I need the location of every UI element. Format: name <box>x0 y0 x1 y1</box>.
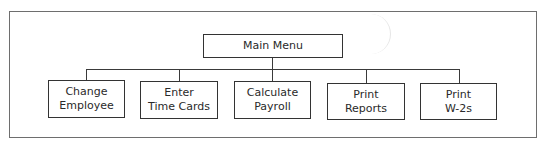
box-label-line1: Enter <box>164 86 194 100</box>
box-label-line2: Payroll <box>254 100 291 114</box>
box-label-line2: Reports <box>345 102 387 116</box>
print-w2s-box: Print W-2s <box>420 83 497 120</box>
calculate-payroll-box: Calculate Payroll <box>234 81 311 119</box>
box-label-line1: Change <box>65 85 107 99</box>
box-label-line1: Print <box>446 88 471 102</box>
main-menu-box: Main Menu <box>203 34 343 58</box>
box-label-line1: Calculate <box>247 86 298 100</box>
child-connector-5 <box>459 69 460 83</box>
child-connector-2 <box>179 69 180 81</box>
box-label-line2: W-2s <box>445 102 472 116</box>
box-label-line1: Print <box>353 88 378 102</box>
box-label-line2: Time Cards <box>148 100 210 114</box>
child-connector-1 <box>86 69 87 80</box>
box-label-line2: Employee <box>59 99 113 113</box>
change-employee-box: Change Employee <box>48 80 125 118</box>
print-reports-box: Print Reports <box>327 83 405 120</box>
child-connector-4 <box>366 69 367 83</box>
enter-time-cards-box: Enter Time Cards <box>140 81 218 119</box>
child-connector-3 <box>272 69 273 81</box>
main-menu-label: Main Menu <box>243 39 303 53</box>
